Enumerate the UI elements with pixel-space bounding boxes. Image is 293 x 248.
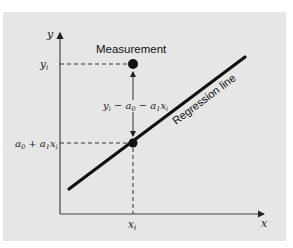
y-axis-label: y	[46, 28, 54, 41]
residual-label: yi − a0 − a1xi	[102, 100, 168, 113]
guide-lines	[60, 64, 133, 214]
x-axis-label: x	[261, 217, 268, 230]
axes	[60, 33, 264, 214]
regression-line	[69, 57, 245, 189]
xi-label: xi	[128, 218, 136, 232]
fitted-value-label: a0 + a1xi	[15, 138, 58, 151]
measurement-label: Measurement	[96, 43, 167, 55]
measurement-point	[128, 59, 138, 69]
regression-diagram: y x Measurement yi a0 + a1xi yi − a0 − a…	[0, 0, 293, 248]
yi-label: yi	[39, 58, 48, 72]
fitted-point	[129, 139, 138, 148]
regression-line-label: Regression line	[170, 71, 238, 126]
